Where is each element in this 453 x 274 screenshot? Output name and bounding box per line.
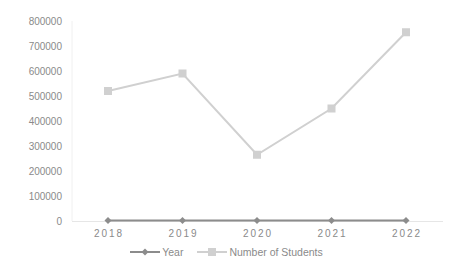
series-layer (104, 28, 410, 224)
y-tick-label: 600000 (29, 66, 62, 77)
y-tick-label: 0 (56, 216, 62, 227)
square-marker-icon[interactable] (328, 105, 336, 113)
diamond-marker-icon[interactable] (254, 217, 261, 224)
square-marker-icon[interactable] (402, 28, 410, 36)
diamond-marker-icon[interactable] (403, 217, 410, 224)
legend: Year Number of Students (0, 246, 453, 258)
square-marker-icon[interactable] (179, 70, 187, 78)
legend-label-number-of-students: Number of Students (229, 246, 322, 258)
x-tick-label: 2021 (317, 228, 347, 239)
y-tick-label: 500000 (29, 91, 62, 102)
square-line-icon (197, 247, 227, 257)
y-tick-label: 700000 (29, 41, 62, 52)
y-tick-label: 300000 (29, 141, 62, 152)
x-tick-label: 2022 (392, 228, 422, 239)
legend-item-year[interactable]: Year (130, 246, 183, 258)
line-chart-plot (0, 0, 453, 274)
y-tick-label: 800000 (29, 16, 62, 27)
diamond-marker-icon[interactable] (179, 217, 186, 224)
series-line (108, 32, 406, 155)
diamond-marker-icon[interactable] (328, 217, 335, 224)
y-tick-label: 400000 (29, 116, 62, 127)
x-tick-label: 2018 (94, 228, 124, 239)
diamond-marker-icon[interactable] (105, 217, 112, 224)
y-tick-label: 200000 (29, 166, 62, 177)
legend-item-number-of-students[interactable]: Number of Students (197, 246, 322, 258)
diamond-line-icon (130, 247, 160, 257)
square-marker-icon[interactable] (104, 87, 112, 95)
x-tick-label: 2020 (243, 228, 273, 239)
y-tick-label: 100000 (29, 191, 62, 202)
legend-label-year: Year (162, 246, 183, 258)
square-marker-icon[interactable] (253, 151, 261, 159)
x-tick-label: 2019 (168, 228, 198, 239)
